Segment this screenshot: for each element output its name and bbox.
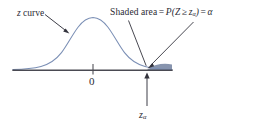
probability-open-paren: P(	[166, 7, 175, 17]
origin-axis-label: 0	[89, 76, 95, 87]
greater-equal-operator: ≥	[180, 7, 188, 17]
figure-canvas	[0, 0, 255, 132]
shaded-area-label-prefix: Shaded area	[110, 7, 157, 17]
z-curve-label: z curve	[17, 9, 44, 19]
alpha-symbol: α	[207, 7, 212, 17]
shaded-area-label: Shaded area=P(Z≥zα)=α	[110, 8, 213, 18]
z-curve-tail-area-figure: z curve Shaded area=P(Z≥zα)=α 0 zα	[0, 0, 255, 132]
shaded-area-equals-first: =	[157, 7, 165, 17]
zalpha-pointer-arrowhead	[144, 73, 149, 79]
z-curve-label-text: curve	[21, 8, 44, 18]
shaded-area-right-leader-line	[151, 22, 194, 66]
zalpha-axis-label: zα	[139, 110, 146, 121]
zalpha-axis-label-subscript: α	[143, 113, 146, 120]
z-curve-path	[13, 18, 172, 70]
z-curve-leader-line	[45, 15, 67, 32]
